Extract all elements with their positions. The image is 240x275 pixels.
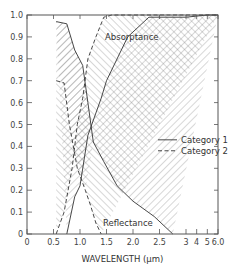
- x-tick-label: 1.0: [74, 238, 87, 247]
- y-tick-label: 0.6: [10, 99, 23, 108]
- y-tick-label: 0.2: [10, 186, 23, 195]
- y-tick-label: 0.3: [10, 164, 23, 173]
- hatched-regions: [56, 15, 218, 234]
- x-tick-label: 5: [205, 238, 210, 247]
- x-tick-label: 0: [24, 238, 29, 247]
- y-tick-label: 0: [18, 230, 23, 239]
- y-tick-label: 0.4: [10, 142, 23, 151]
- y-tick-label: 0.7: [10, 77, 23, 86]
- x-tick-label: 6.0: [212, 238, 225, 247]
- annotation-absorptance: Absorptance: [105, 32, 159, 42]
- y-tick-label: 1.0: [10, 11, 23, 20]
- legend-label-category-2: Category 2: [181, 146, 228, 156]
- y-tick-label: 0.8: [10, 55, 23, 64]
- x-tick-label: 0.5: [47, 238, 60, 247]
- y-tick-label: 0.9: [10, 33, 23, 42]
- y-tick-label: 0.1: [10, 208, 23, 217]
- annotation-reflectance: Reflectance: [103, 218, 153, 228]
- spectral-chart: 00.51.01.52.02.53456.0 00.10.20.30.40.50…: [0, 0, 240, 275]
- x-tick-label: 2.5: [153, 238, 166, 247]
- legend-label-category-1: Category 1: [181, 135, 228, 145]
- x-tick-label: 2.0: [127, 238, 140, 247]
- x-axis-title: WAVELENGTH (μm): [82, 254, 164, 264]
- x-tick-label: 1.5: [100, 238, 113, 247]
- x-tick-label: 3: [183, 238, 188, 247]
- x-tick-label: 4: [194, 238, 199, 247]
- y-tick-label: 0.5: [10, 121, 23, 130]
